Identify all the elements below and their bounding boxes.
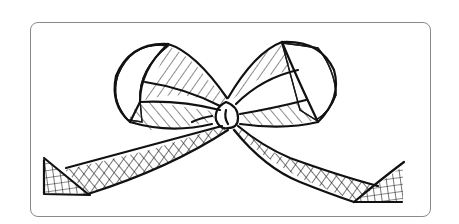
- left-tail: [44, 126, 228, 195]
- bow-knot: [216, 102, 238, 128]
- right-loop: [228, 42, 336, 127]
- right-tail: [232, 126, 404, 202]
- left-loop: [115, 44, 227, 130]
- bow-illustration: [0, 0, 459, 224]
